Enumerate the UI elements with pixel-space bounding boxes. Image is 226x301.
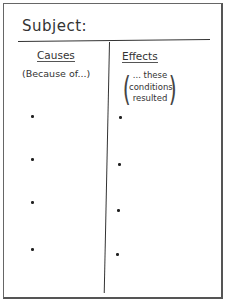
effects-prompt-lines: ... these conditions resulted (129, 70, 171, 105)
cause-bullet (31, 115, 34, 118)
causes-prompt: (Because of...) (22, 68, 90, 79)
effect-bullet (119, 116, 122, 119)
cause-bullet (31, 248, 34, 251)
cause-bullet (31, 201, 34, 204)
cause-bullet (31, 158, 34, 161)
effect-bullet (118, 163, 121, 166)
causes-heading: Causes (37, 49, 75, 62)
close-paren: ) (169, 68, 177, 110)
effects-heading: Effects (122, 50, 158, 63)
effect-bullet (116, 253, 119, 256)
organizer-frame (3, 3, 223, 299)
effect-bullet (117, 209, 120, 212)
effects-prompt: ( ... these conditions resulted ) (120, 70, 178, 112)
subject-label: Subject: (22, 17, 87, 35)
